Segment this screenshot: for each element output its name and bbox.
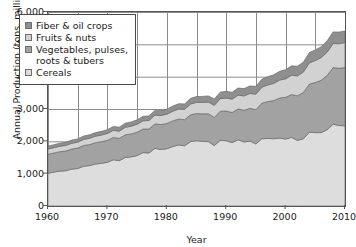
x-tick-label: 1970 xyxy=(94,211,118,222)
x-axis-title: Year xyxy=(47,234,346,245)
legend: Fiber & oil cropsFruits & nutsVegetables… xyxy=(19,14,136,85)
legend-swatch-icon xyxy=(25,22,32,29)
x-axis-tick-labels: 196019701980199020002010 xyxy=(47,211,346,227)
legend-swatch-icon xyxy=(25,34,32,41)
x-tick-label: 1980 xyxy=(154,211,178,222)
legend-item-label: Fruits & nuts xyxy=(36,32,96,43)
legend-item: Fruits & nuts xyxy=(25,32,128,43)
legend-item: Cereals xyxy=(25,67,128,78)
legend-swatch-icon xyxy=(25,46,32,53)
legend-item-label: Vegetables, pulses,roots & tubers xyxy=(36,44,128,66)
x-tick-label: 2000 xyxy=(273,211,297,222)
x-tick-label: 2010 xyxy=(332,211,356,222)
legend-item-label: Cereals xyxy=(36,67,71,78)
x-tick-label: 1960 xyxy=(35,211,59,222)
legend-item: Fiber & oil crops xyxy=(25,20,128,31)
legend-item-label: Fiber & oil crops xyxy=(36,20,112,31)
legend-item-label-line2: roots & tubers xyxy=(36,55,128,66)
legend-swatch-icon xyxy=(25,69,32,76)
legend-item: Vegetables, pulses,roots & tubers xyxy=(25,44,128,66)
x-tick-label: 1990 xyxy=(213,211,237,222)
